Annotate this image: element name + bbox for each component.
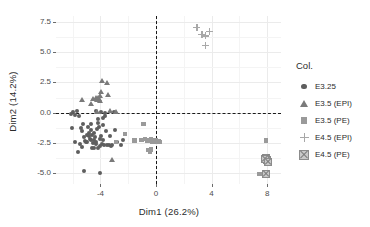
x-axis-title: Dim1 (26.2%) [104,206,234,217]
data-point-circle [101,123,105,127]
y-tick-label: 0.0 [25,108,51,117]
data-point-circle [89,122,93,126]
data-point-square-x [262,170,270,178]
legend-item-e3-5-pe[interactable]: E3.5 (PE) [296,112,370,129]
data-point-circle [81,122,85,126]
data-point-triangle [113,109,119,114]
gridline-horizontal [56,82,281,83]
data-point-circle [80,129,84,133]
gridline-horizontal-minor [56,158,281,159]
y-tick-label: -2.5 [25,138,51,147]
x-tick-label: -4 [89,189,111,198]
legend-item-e4-5-epi[interactable]: E4.5 (EPI) [296,129,370,146]
data-point-triangle [107,108,113,113]
gridline-horizontal [56,22,281,23]
data-point-square [158,140,162,144]
gridline-horizontal-minor [56,37,281,38]
data-point-circle [108,134,112,138]
data-point-circle [121,138,125,142]
x-tick-mark [267,184,268,187]
data-point-plus [206,28,213,35]
data-point-circle [113,128,117,132]
legend-label: E3.5 (PE) [315,116,350,125]
data-point-circle [80,145,84,149]
data-point-square [257,172,261,176]
reference-line-x [156,16,157,184]
gridline-horizontal-minor [56,67,281,68]
legend: Col. E3.25E3.5 (EPI)E3.5 (PE)E4.5 (EPI)E… [296,60,370,163]
data-point-circle [69,112,73,116]
y-tick-label: 7.5 [25,17,51,26]
y-tick-label: -5.0 [25,168,51,177]
legend-item-e3-25[interactable]: E3.25 [296,78,370,95]
x-tick-mark [156,184,157,187]
scatter-plot-figure: Dim2 (14.2%) Dim1 (26.2%) 7.55.02.50.0-2… [0,0,370,227]
legend-item-e4-5-pe[interactable]: E4.5 (PE) [296,146,370,163]
reference-line-y [56,113,281,114]
y-axis-title: Dim2 (14.2%) [7,67,18,137]
data-point-triangle [104,80,110,85]
legend-marker-circle-icon [296,79,312,95]
data-point-circle [104,129,108,133]
gridline-horizontal [56,52,281,53]
legend-marker-triangle-icon [296,96,312,112]
data-point-triangle [94,109,100,114]
data-point-circle [98,171,102,175]
data-point-plus [202,42,209,49]
data-point-triangle [105,92,111,97]
data-point-circle [77,114,81,118]
x-tick-label: 4 [201,189,223,198]
data-point-circle [119,143,123,147]
data-point-triangle [109,157,115,162]
x-tick-label: 8 [256,189,278,198]
legend-marker-plus-icon [296,130,312,146]
data-point-square [264,138,268,142]
data-point-circle [93,135,97,139]
data-point-triangle [88,101,94,106]
legend-title: Col. [296,60,370,71]
data-point-square [123,132,127,136]
data-point-circle [85,133,89,137]
data-point-square [132,138,136,142]
data-point-circle [96,146,100,150]
data-point-square-x [264,158,272,166]
legend-marker-square-x-icon [296,147,312,163]
data-point-triangle [97,98,103,103]
legend-label: E4.5 (PE) [315,150,350,159]
x-tick-label: 0 [145,189,167,198]
data-point-circle [92,131,96,135]
data-point-triangle [97,93,103,98]
data-point-square [141,122,145,126]
x-tick-mark [212,184,213,187]
data-point-square [114,140,118,144]
y-tick-label: 2.5 [25,77,51,86]
legend-label: E4.5 (EPI) [315,133,352,142]
gridline-horizontal [56,143,281,144]
data-point-square [149,147,153,151]
legend-label: E3.25 [315,82,336,91]
data-point-triangle [79,97,85,102]
data-point-circle [103,114,107,118]
data-point-circle [76,150,80,154]
gridline-horizontal [56,173,281,174]
y-tick-label: 5.0 [25,47,51,56]
plot-panel [56,16,281,184]
legend-label: E3.5 (EPI) [315,99,352,108]
legend-items: E3.25E3.5 (EPI)E3.5 (PE)E4.5 (EPI)E4.5 (… [296,78,370,163]
legend-marker-square-icon [296,113,312,129]
x-tick-mark [100,184,101,187]
legend-item-e3-5-epi[interactable]: E3.5 (EPI) [296,95,370,112]
